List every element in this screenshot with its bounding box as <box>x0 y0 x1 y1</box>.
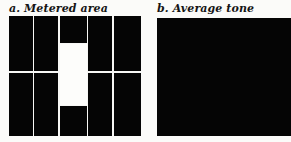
grid-cell-r2c4 <box>88 73 112 136</box>
panel-b-caption: b. Average tone <box>157 3 254 15</box>
grid-cell-r2c1 <box>9 73 33 136</box>
grid-cell-r1c2 <box>34 16 58 71</box>
panel-b-average-tone <box>157 18 291 136</box>
grid-cell-r1c4 <box>88 16 112 71</box>
grid-cell-r1c1 <box>9 16 33 71</box>
grid-cell-r1c3 <box>60 16 87 43</box>
grid-cell-r2c2 <box>34 73 58 136</box>
panel-a-metered-area <box>9 16 141 136</box>
grid-cell-r1c5 <box>114 16 141 71</box>
grid-cell-metered-highlight <box>60 44 87 105</box>
grid-cell-r2c3 <box>60 106 87 136</box>
figure-metering-diagram: a. Metered area b. Average tone <box>0 0 291 142</box>
grid-cell-r2c5 <box>114 73 141 136</box>
panel-a-caption: a. Metered area <box>9 3 108 15</box>
